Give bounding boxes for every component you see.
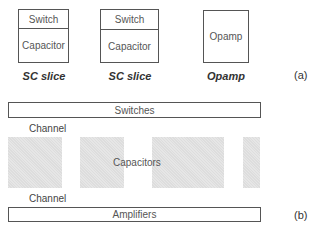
- switch-label: Switch: [115, 14, 144, 25]
- channel-top-label: Channel: [29, 123, 66, 134]
- opamp-label: Opamp: [210, 31, 243, 42]
- switches-bar: Switches: [8, 102, 261, 118]
- capacitor-cell: Capacitor: [19, 29, 68, 62]
- part-b-label: (b): [294, 209, 307, 221]
- capacitor-block-1: [8, 137, 62, 188]
- sc-slice-2-caption: SC slice: [99, 70, 161, 82]
- opamp-caption: Opamp: [196, 70, 256, 82]
- capacitor-label: Capacitor: [108, 41, 151, 52]
- channel-bottom-label: Channel: [29, 193, 66, 204]
- switch-cell: Switch: [19, 10, 68, 28]
- switch-label: Switch: [29, 14, 58, 25]
- opamp-block: Opamp: [203, 10, 249, 63]
- sc-slice-1-caption: SC slice: [14, 70, 74, 82]
- switches-label: Switches: [114, 105, 154, 116]
- part-a-label: (a): [294, 69, 307, 81]
- capacitor-block-4: [243, 137, 260, 188]
- sc-slice-2: Switch Capacitor: [100, 9, 159, 63]
- capacitor-block-3: [152, 137, 224, 188]
- capacitor-label: Capacitor: [22, 40, 65, 51]
- capacitor-cell: Capacitor: [101, 30, 158, 62]
- amplifiers-bar: Amplifiers: [8, 207, 261, 222]
- switch-cell: Switch: [101, 10, 158, 29]
- amplifiers-label: Amplifiers: [113, 209, 157, 220]
- opamp-cell: Opamp: [204, 11, 248, 62]
- sc-slice-1: Switch Capacitor: [18, 9, 69, 63]
- capacitors-label: Capacitors: [113, 157, 161, 168]
